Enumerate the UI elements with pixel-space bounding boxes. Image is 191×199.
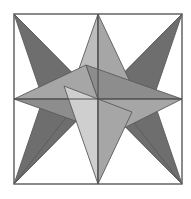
geometric-figure <box>0 0 191 199</box>
star-polyhedron-svg <box>0 0 191 199</box>
